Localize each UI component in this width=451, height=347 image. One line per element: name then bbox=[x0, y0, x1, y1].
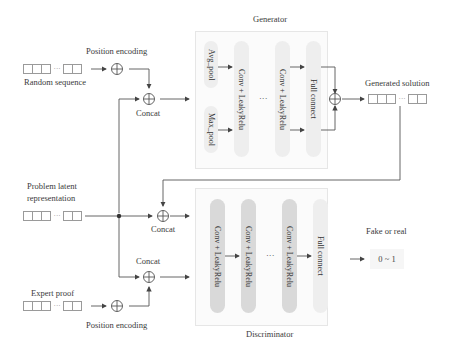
trunk-to-concat-gen bbox=[119, 99, 139, 213]
arrow-posenc-to-concat bbox=[129, 69, 149, 88]
junction-dot bbox=[117, 214, 121, 218]
plus-icon-concat-gen bbox=[144, 94, 155, 105]
plus-icon-gen-output bbox=[330, 94, 341, 105]
arrow-generated-to-disc-concat bbox=[163, 106, 400, 206]
plus-icon-concat-disc-bottom bbox=[144, 272, 155, 283]
plus-icon-posenc-top bbox=[112, 64, 123, 75]
connector-layer bbox=[0, 0, 451, 347]
plus-icon-concat-disc-top bbox=[158, 211, 169, 222]
plus-icon-posenc-bottom bbox=[112, 301, 123, 312]
